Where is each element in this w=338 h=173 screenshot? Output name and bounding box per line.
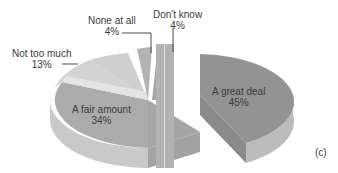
panel-label: (c) xyxy=(315,147,327,158)
label-none-at-all: None at all 4% xyxy=(88,15,136,37)
label-a-fair-amount: A fair amount 34% xyxy=(72,104,131,126)
label-dont-know: Don't know 4% xyxy=(153,9,202,31)
label-not-too-much: Not too much 13% xyxy=(12,48,71,70)
label-a-great-deal: A great deal 45% xyxy=(212,86,265,108)
